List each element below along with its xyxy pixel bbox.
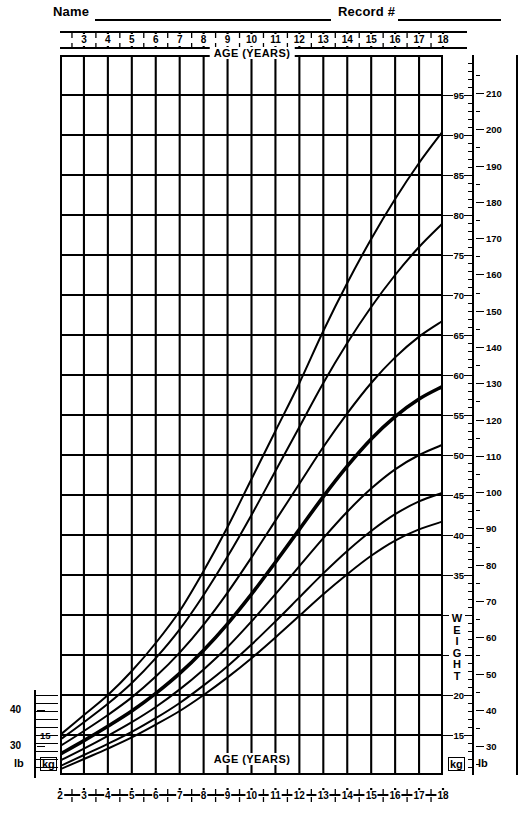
right-lb-tick-100 xyxy=(476,492,484,493)
right-kg-minor-tick xyxy=(468,503,472,504)
left-kg-minor-tick xyxy=(36,727,58,728)
right-kg-minor-tick xyxy=(468,383,472,384)
right-kg-tick-label-55: 55 xyxy=(453,410,464,421)
bottom-age-tick-4: 4 xyxy=(104,790,112,802)
left-kg-minor-tick xyxy=(36,695,58,696)
right-kg-minor-tick xyxy=(468,319,472,320)
right-kg-tick-label-65: 65 xyxy=(453,330,464,341)
age-axis-label-top: AGE (YEARS) xyxy=(210,47,295,59)
left-kg-minor-tick xyxy=(36,735,58,736)
right-lb-minor-tick xyxy=(476,728,480,729)
percentile-curves xyxy=(62,57,441,773)
right-lb-tick-label-60: 60 xyxy=(486,632,497,643)
right-kg-minor-tick xyxy=(468,127,472,128)
right-kg-minor-tick xyxy=(468,103,472,104)
left-kg-minor-tick xyxy=(36,703,58,704)
right-kg-minor-tick xyxy=(468,87,472,88)
top-age-tick-14: 14 xyxy=(341,34,354,46)
right-kg-tick-15 xyxy=(465,735,472,736)
right-lb-column: 3040506070809010011012013014015016017018… xyxy=(474,55,518,775)
right-kg-minor-tick xyxy=(468,183,472,184)
right-kg-minor-tick xyxy=(468,311,472,312)
right-kg-tick-90 xyxy=(465,135,472,136)
percentile-curve-10 xyxy=(62,493,441,767)
left-lb-tick-label-40: 40 xyxy=(10,704,21,716)
right-kg-minor-tick xyxy=(468,303,472,304)
right-lb-tick-120 xyxy=(476,420,484,421)
left-kg-minor-tick xyxy=(36,743,58,744)
right-lb-minor-tick xyxy=(476,655,480,656)
right-lb-tick-label-170: 170 xyxy=(486,233,502,244)
right-kg-minor-tick xyxy=(468,479,472,480)
right-lb-minor-tick xyxy=(476,75,480,76)
right-lb-tick-90 xyxy=(476,528,484,529)
weight-axis-label: WEIGHT xyxy=(449,613,465,682)
right-lb-tick-label-30: 30 xyxy=(486,741,497,752)
right-lb-tick-label-160: 160 xyxy=(486,269,502,280)
right-kg-minor-tick xyxy=(468,143,472,144)
right-lb-tick-140 xyxy=(476,347,484,348)
right-kg-minor-tick xyxy=(468,471,472,472)
right-kg-tick-label-70: 70 xyxy=(453,290,464,301)
unit-label-kg-left: kg xyxy=(40,757,57,771)
right-kg-minor-tick xyxy=(468,631,472,632)
right-kg-minor-tick xyxy=(468,639,472,640)
right-kg-minor-tick xyxy=(468,607,472,608)
right-kg-minor-tick xyxy=(468,79,472,80)
right-kg-minor-tick xyxy=(468,447,472,448)
right-kg-tick-label-75: 75 xyxy=(453,250,464,261)
right-kg-minor-tick xyxy=(468,703,472,704)
bottom-age-tick-7: 7 xyxy=(176,790,184,802)
record-number-write-in-line[interactable] xyxy=(398,19,501,21)
right-kg-tick-25 xyxy=(465,655,472,656)
left-lb-tick-label-30: 30 xyxy=(10,740,21,752)
name-label: Name xyxy=(53,4,89,19)
percentile-curve-90 xyxy=(62,223,441,740)
growth-chart-plot[interactable] xyxy=(60,55,443,775)
right-lb-tick-210 xyxy=(476,93,484,94)
name-write-in-line[interactable] xyxy=(95,19,331,21)
right-lb-minor-tick xyxy=(476,547,480,548)
right-kg-tick-label-45: 45 xyxy=(453,490,464,501)
right-lb-tick-190 xyxy=(476,166,484,167)
percentile-curve-25 xyxy=(62,445,441,761)
right-kg-minor-tick xyxy=(468,287,472,288)
right-kg-minor-tick xyxy=(468,151,472,152)
right-kg-minor-tick xyxy=(468,711,472,712)
right-lb-tick-label-140: 140 xyxy=(486,341,502,352)
right-kg-minor-tick xyxy=(468,687,472,688)
right-lb-tick-label-80: 80 xyxy=(486,559,497,570)
percentile-curve-75 xyxy=(62,321,441,747)
right-kg-minor-tick xyxy=(468,367,472,368)
age-axis-label-bottom: AGE (YEARS) xyxy=(210,753,295,765)
percentile-curve-50 xyxy=(62,386,441,754)
right-kg-minor-tick xyxy=(468,487,472,488)
left-kg-minor-tick xyxy=(36,711,58,712)
weight-label-letter: T xyxy=(449,671,465,683)
left-kg-minor-tick xyxy=(36,719,58,720)
top-age-tick-3: 3 xyxy=(80,34,88,46)
right-lb-tick-60 xyxy=(476,637,484,638)
right-kg-minor-tick xyxy=(468,767,472,768)
unit-label-lb-right: lb xyxy=(478,757,488,769)
right-lb-minor-tick xyxy=(476,220,480,221)
record-number-label: Record # xyxy=(338,4,395,19)
right-lb-minor-tick xyxy=(476,329,480,330)
right-kg-minor-tick xyxy=(468,343,472,344)
right-kg-tick-label-90: 90 xyxy=(453,130,464,141)
right-lb-minor-tick xyxy=(476,438,480,439)
right-kg-minor-tick xyxy=(468,551,472,552)
right-lb-tick-label-50: 50 xyxy=(486,668,497,679)
right-lb-tick-label-90: 90 xyxy=(486,523,497,534)
bottom-age-tick-17: 17 xyxy=(413,790,426,802)
bottom-age-tick-12: 12 xyxy=(293,790,306,802)
right-kg-minor-tick xyxy=(468,231,472,232)
right-kg-tick-label-60: 60 xyxy=(453,370,464,381)
right-kg-minor-tick xyxy=(468,423,472,424)
right-lb-tick-170 xyxy=(476,238,484,239)
right-kg-tick-35 xyxy=(465,575,472,576)
weight-label-letter: W xyxy=(449,613,465,625)
bottom-age-tick-15: 15 xyxy=(365,790,378,802)
right-kg-tick-20 xyxy=(465,695,472,696)
top-age-tick-16: 16 xyxy=(389,34,402,46)
